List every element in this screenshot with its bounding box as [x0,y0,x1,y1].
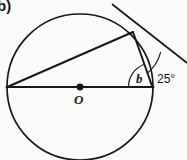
angle-25-label: 25° [157,73,175,85]
centre-label: O [74,93,83,106]
chord-line [7,32,133,87]
part-label: b) [0,0,11,13]
tangent-line [113,5,187,63]
centre-point-dot [77,84,84,91]
angle-b-label: b [136,72,143,85]
circle-geometry-diagram: b) O b 25° [0,0,187,160]
